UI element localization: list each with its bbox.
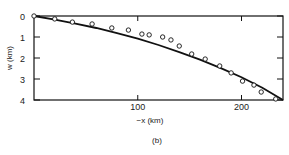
observed-point — [190, 52, 194, 56]
x-tick-label: 100 — [130, 102, 145, 112]
x-axis-label: −x (km) — [137, 116, 164, 125]
observed-point — [218, 64, 222, 68]
observed-point — [203, 57, 207, 61]
y-tick-label: 4 — [20, 96, 25, 106]
plot-frame — [34, 16, 283, 100]
observed-point — [110, 26, 114, 30]
observed-point — [240, 79, 244, 83]
ticks: 10020001234 — [20, 12, 283, 113]
observed-point — [177, 44, 181, 48]
y-tick-label: 1 — [20, 33, 25, 43]
observed-point — [259, 90, 263, 94]
observed-point — [229, 71, 233, 75]
observed-point — [32, 14, 36, 18]
model-curve — [34, 16, 283, 100]
observed-point — [140, 32, 144, 36]
y-axis-label: w (km) — [5, 46, 14, 71]
observed-point — [160, 35, 164, 39]
observed-point — [90, 22, 94, 26]
axes — [34, 16, 283, 100]
chart: 10020001234 −x (km) w (km) (b) — [0, 0, 289, 155]
observed-point — [70, 20, 74, 24]
observed-point — [169, 38, 173, 42]
panel-label: (b) — [152, 136, 162, 145]
observed-point — [252, 83, 256, 87]
y-tick-label: 2 — [20, 54, 25, 64]
observed-point — [147, 33, 151, 37]
observed-point — [274, 97, 278, 101]
y-tick-label: 0 — [20, 12, 25, 22]
y-tick-label: 3 — [20, 75, 25, 85]
x-tick-label: 200 — [234, 102, 249, 112]
observed-point — [53, 17, 57, 21]
observed-point — [126, 28, 130, 32]
marks — [32, 14, 283, 101]
